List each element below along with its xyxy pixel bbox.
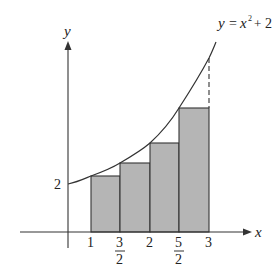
function-label: y = x 2 + 2 bbox=[216, 14, 272, 31]
left-endpoint-rectangles bbox=[91, 108, 209, 232]
x-axis-label: x bbox=[254, 224, 262, 240]
riemann-sum-figure: y x 2 y = x 2 + 2 1 3 2 2 5 2 3 bbox=[0, 0, 280, 277]
svg-text:x: x bbox=[239, 15, 247, 31]
svg-text:+: + bbox=[254, 16, 261, 31]
y-tick-2: 2 bbox=[54, 177, 61, 192]
x-tick-1: 1 bbox=[87, 235, 94, 250]
rectangle-1 bbox=[91, 176, 120, 232]
x-tick-5-2-num: 5 bbox=[175, 235, 182, 250]
rectangle-2 bbox=[120, 163, 150, 232]
svg-text:2: 2 bbox=[265, 16, 272, 31]
rectangle-4 bbox=[179, 108, 209, 232]
svg-text:=: = bbox=[229, 16, 237, 31]
x-tick-3-2-den: 2 bbox=[116, 252, 123, 267]
y-axis-label: y bbox=[62, 23, 71, 39]
svg-text:y: y bbox=[216, 15, 225, 31]
x-axis-arrow-icon bbox=[243, 229, 252, 236]
svg-text:2: 2 bbox=[248, 14, 252, 23]
x-tick-3: 3 bbox=[205, 235, 212, 250]
rectangle-3 bbox=[150, 143, 179, 232]
x-tick-labels: 1 3 2 2 5 2 3 bbox=[87, 235, 212, 267]
y-axis-arrow-icon bbox=[65, 41, 72, 50]
x-tick-2: 2 bbox=[146, 235, 153, 250]
x-tick-5-2-den: 2 bbox=[175, 252, 182, 267]
x-tick-3-2-num: 3 bbox=[116, 235, 123, 250]
